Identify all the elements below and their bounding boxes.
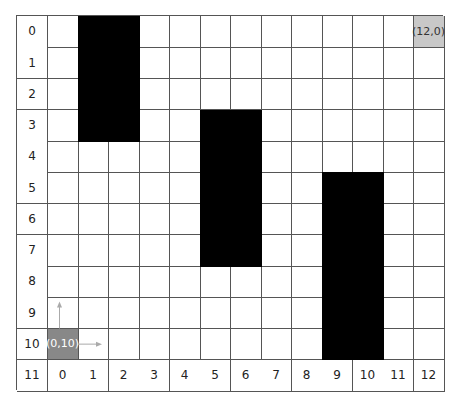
occupancy-grid: 012345678910110123456789101112(12,0)(0,1… xyxy=(16,15,443,390)
axis-arrows-icon xyxy=(17,16,444,391)
